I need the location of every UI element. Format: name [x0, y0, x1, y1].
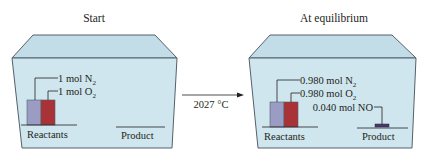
start-box-top: [12, 35, 177, 58]
start-o2-bar: [41, 100, 55, 125]
eq-no-label: 0.040 mol NO: [313, 102, 374, 113]
eq-n2-bar: [270, 102, 284, 127]
arrowhead-icon: [237, 93, 244, 98]
arrow-temperature-label: 2027 °C: [194, 99, 229, 110]
start-n2-bar: [27, 100, 41, 125]
start-reactants-label: Reactants: [27, 129, 68, 140]
eq-no-bar: [375, 124, 389, 127]
reaction-arrow: [182, 93, 244, 98]
eq-product-label: Product: [362, 131, 395, 142]
eq-o2-bar: [284, 102, 298, 127]
start-product-label: Product: [121, 130, 154, 141]
eq-title: At equilibrium: [300, 12, 368, 25]
equilibrium-diagram: Start At equilibrium 1 mol N2 1 mol O2 R…: [0, 0, 430, 156]
eq-reactants-label: Reactants: [264, 131, 305, 142]
start-title: Start: [83, 12, 106, 24]
eq-box-top: [249, 35, 416, 58]
